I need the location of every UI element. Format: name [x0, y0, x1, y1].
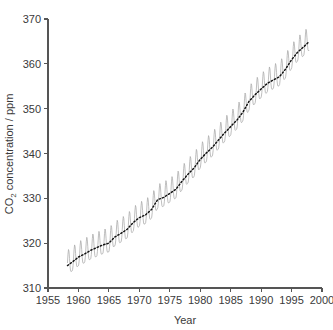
y-tick-label: 340: [23, 148, 41, 160]
chart-background: [0, 0, 333, 330]
x-tick-label: 1965: [97, 294, 121, 306]
co2-concentration-chart: 310320330340350360370 195519601965197019…: [0, 0, 333, 330]
x-tick-label: 1970: [127, 294, 151, 306]
x-tick-label: 1990: [249, 294, 273, 306]
x-tick-label: 1980: [188, 294, 212, 306]
x-tick-label: 2000: [310, 294, 333, 306]
x-axis-title: Year: [174, 314, 197, 326]
x-tick-label: 1995: [279, 294, 303, 306]
x-tick-label: 1955: [36, 294, 60, 306]
y-tick-label: 330: [23, 192, 41, 204]
y-tick-label: 370: [23, 13, 41, 25]
x-tick-label: 1985: [218, 294, 242, 306]
y-tick-label: 320: [23, 237, 41, 249]
chart-canvas: 310320330340350360370 195519601965197019…: [0, 0, 333, 330]
x-tick-label: 1960: [66, 294, 90, 306]
x-tick-label: 1975: [158, 294, 182, 306]
y-tick-label: 360: [23, 58, 41, 70]
y-tick-label: 350: [23, 103, 41, 115]
y-tick-label: 310: [23, 282, 41, 294]
